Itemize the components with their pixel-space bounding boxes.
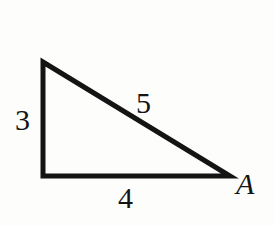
vertex-a-label: A — [236, 169, 254, 199]
triangle-outline — [43, 62, 230, 176]
geometry-figure-canvas: 3 4 5 A — [0, 0, 275, 226]
horizontal-leg-length-label: 4 — [118, 183, 133, 213]
vertical-leg-length-label: 3 — [15, 105, 30, 135]
hypotenuse-length-label: 5 — [136, 88, 151, 118]
